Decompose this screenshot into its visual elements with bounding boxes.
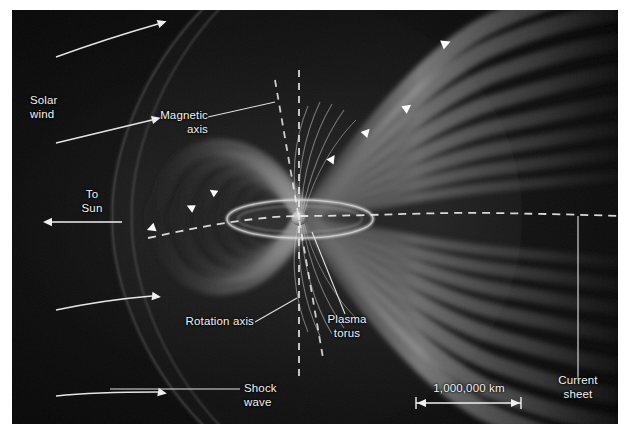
film-grain (12, 10, 618, 424)
figure-root: Solar wind To Sun Magnetic axis Rotation… (0, 0, 630, 438)
diagram-canvas: Solar wind To Sun Magnetic axis Rotation… (12, 10, 618, 424)
magnetosphere-illustration (12, 10, 618, 424)
